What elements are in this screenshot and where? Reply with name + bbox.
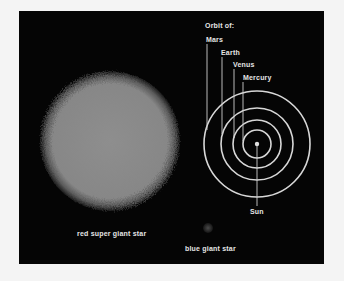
red-super-giant-star	[40, 71, 180, 211]
red-super-giant-label: red super giant star	[77, 230, 146, 237]
sun-label: Sun	[250, 208, 264, 215]
orbit-label-mars: Mars	[206, 36, 223, 43]
blue-giant-star	[203, 223, 213, 233]
orbit-heading: Orbit of:	[205, 22, 234, 29]
orbit-label-mercury: Mercury	[243, 74, 272, 81]
blue-giant-label: blue giant star	[185, 245, 236, 252]
sun-dot	[255, 142, 259, 146]
orbit-label-venus: Venus	[233, 61, 255, 68]
orbit-label-earth: Earth	[221, 49, 240, 56]
diagram-canvas	[0, 0, 344, 281]
leader-lines	[207, 44, 257, 206]
